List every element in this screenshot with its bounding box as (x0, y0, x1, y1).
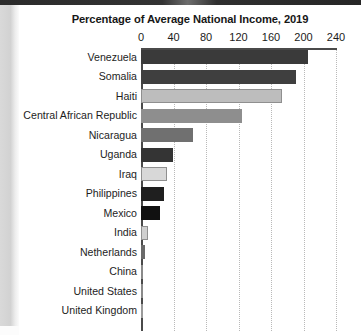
x-tick-label: 0 (138, 31, 144, 43)
bar (141, 70, 296, 84)
bar-row: United Kingdom (19, 302, 361, 322)
bar-row: Mexico (19, 204, 361, 224)
bar (141, 245, 145, 259)
bar (141, 304, 143, 318)
category-label: United Kingdom (62, 304, 137, 316)
bar (141, 167, 167, 181)
bar (141, 148, 173, 162)
category-label: Uganda (100, 148, 137, 160)
bar-row: Nicaragua (19, 126, 361, 146)
category-label: United States (73, 285, 137, 297)
bar-row: China (19, 263, 361, 283)
category-label: Nicaragua (89, 129, 137, 141)
bar-row: India (19, 224, 361, 244)
bar (141, 187, 164, 201)
scan-left-strip (0, 5, 19, 335)
category-label: Mexico (103, 207, 137, 219)
bar-row: United States (19, 282, 361, 302)
category-label: Somalia (99, 70, 137, 82)
chart-container: Percentage of Average National Income, 2… (19, 5, 361, 335)
bar-series: VenezuelaSomaliaHaitiCentral African Rep… (19, 48, 361, 331)
bar-row: Philippines (19, 185, 361, 205)
chart-title: Percentage of Average National Income, 2… (19, 13, 361, 25)
x-tick-label: 120 (229, 31, 247, 43)
x-tick-label: 40 (167, 31, 179, 43)
bar-row: Iraq (19, 165, 361, 185)
x-tick-label: 80 (200, 31, 212, 43)
bar (141, 89, 282, 103)
category-label: Iraq (119, 168, 137, 180)
bar (141, 226, 148, 240)
category-label: India (114, 226, 137, 238)
bar (141, 109, 242, 123)
category-label: Haiti (116, 90, 137, 102)
bar-row: Netherlands (19, 243, 361, 263)
bar (141, 128, 193, 142)
category-label: China (109, 265, 137, 277)
bar-row: Uganda (19, 146, 361, 166)
x-tick-label: 160 (262, 31, 280, 43)
bar-row: Venezuela (19, 48, 361, 68)
bar (141, 50, 308, 64)
category-label: Venezuela (88, 51, 137, 63)
bar-row: Somalia (19, 68, 361, 88)
x-tick-label: 200 (294, 31, 312, 43)
x-tick-label: 240 (327, 31, 345, 43)
bar (141, 284, 143, 298)
bar-row: Central African Republic (19, 107, 361, 127)
bar (141, 206, 160, 220)
category-label: Philippines (86, 187, 137, 199)
category-label: Central African Republic (23, 109, 137, 121)
x-axis-tick-labels: 04080120160200240 (19, 31, 361, 47)
category-label: Netherlands (80, 246, 137, 258)
bar (141, 265, 143, 279)
plot-area: 04080120160200240 VenezuelaSomaliaHaitiC… (19, 31, 361, 331)
bar-row: Haiti (19, 87, 361, 107)
